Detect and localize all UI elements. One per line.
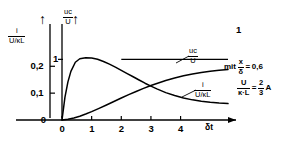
- figure-container: ↑ ↑ i U/κL uс U 0123400,10,21 uс U i U/κ…: [0, 0, 296, 148]
- annotation-line-2: U κ·L = 2 3 A: [237, 79, 271, 97]
- annotation-ratio-denominator: δ: [238, 68, 245, 77]
- annotation-scale-value-fraction: 2 3: [258, 79, 264, 97]
- y-left-axis-arrow-icon: ↑: [39, 12, 46, 26]
- annotation-prefix: mit: [224, 63, 236, 71]
- annotation-line-1: mit x δ = 0,6: [224, 58, 271, 76]
- x-tick-label-3: 3: [148, 124, 153, 134]
- annotation-unit: A: [266, 84, 272, 92]
- annotation-equals-1: =: [246, 63, 251, 71]
- x-axis-label: δt: [205, 123, 213, 132]
- annotation-scale-fraction: U κ·L: [237, 79, 250, 97]
- current-curve-label-fraction: i U/κL: [194, 81, 211, 99]
- y-left-tick-label-1: 0,1: [30, 88, 43, 98]
- annotation-equals-2: =: [252, 84, 257, 92]
- y-left-axis-label: i U/κL: [8, 27, 25, 45]
- y-right-axis-label-fraction: uс U: [63, 8, 73, 26]
- voltage-curve-label-denominator: U: [188, 57, 198, 66]
- voltage-curve-label-fraction: uс U: [188, 47, 198, 65]
- y-right-axis-label: uс U: [63, 8, 73, 26]
- current-curve-label-denominator: U/κL: [194, 91, 211, 100]
- x-tick-label-0: 0: [60, 124, 65, 134]
- annotation-ratio-value: 0,6: [252, 63, 263, 71]
- current-curve-label: i U/κL: [194, 81, 211, 99]
- y-right-tick-label-0: 1: [53, 54, 58, 64]
- annotation-block: mit x δ = 0,6 U κ·L = 2 3 A: [224, 58, 271, 98]
- y-left-axis-label-denominator: U/κL: [8, 37, 25, 46]
- y-left-axis-label-fraction: i U/κL: [8, 27, 25, 45]
- asymptote-value-label: 1: [236, 25, 241, 35]
- annotation-ratio-fraction: x δ: [238, 58, 245, 76]
- y-right-axis-label-denominator: U: [63, 18, 73, 27]
- x-axis-arrow-icon: [228, 117, 236, 123]
- annotation-scale-denominator: κ·L: [237, 89, 250, 98]
- y-left-tick-label-0: 0: [41, 115, 46, 125]
- annotation-scale-value-denominator: 3: [258, 89, 264, 98]
- y-left-tick-marks: [50, 66, 55, 93]
- y-right-axis-arrow-icon: ↑: [72, 12, 79, 26]
- x-tick-label-1: 1: [89, 124, 94, 134]
- voltage-curve-label: uс U: [188, 47, 198, 65]
- y-left-tick-label-2: 0,2: [30, 61, 43, 71]
- x-tick-label-2: 2: [119, 124, 124, 134]
- x-tick-label-4: 4: [178, 124, 183, 134]
